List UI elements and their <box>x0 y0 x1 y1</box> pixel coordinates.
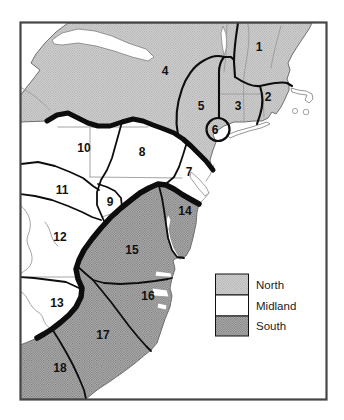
boundary-region11-12 <box>20 194 101 220</box>
region-label-10: 10 <box>77 141 91 155</box>
region-label-2: 2 <box>265 90 272 104</box>
region-label-1: 1 <box>256 40 263 54</box>
marthas-vineyard-island <box>292 108 297 113</box>
boundary-region7-west <box>160 142 187 185</box>
delaware-bay <box>190 172 209 196</box>
legend-label-south: South <box>256 320 286 332</box>
legend-label-midland: Midland <box>256 300 296 312</box>
region-label-12: 12 <box>53 230 67 244</box>
cape-cod <box>291 88 313 103</box>
legend-swatch-north <box>216 274 249 295</box>
legend-swatch-midland <box>216 295 249 316</box>
region-label-7: 7 <box>186 165 193 179</box>
nantucket-island <box>303 109 309 115</box>
region-label-18: 18 <box>53 361 67 375</box>
region-label-16: 16 <box>141 289 155 303</box>
dialect-map: 1 2 3 4 5 6 7 8 9 10 11 12 13 14 15 16 1… <box>0 0 344 420</box>
boundary-region12-13 <box>20 277 83 294</box>
region-label-3: 3 <box>235 99 242 113</box>
legend-label-north: North <box>256 279 284 291</box>
region-label-17: 17 <box>96 328 110 342</box>
region-label-11: 11 <box>56 183 69 197</box>
region-label-6: 6 <box>212 123 219 137</box>
region-label-8: 8 <box>139 145 146 159</box>
region-label-13: 13 <box>50 296 64 310</box>
region-label-4: 4 <box>162 64 169 78</box>
region-label-14: 14 <box>178 204 192 218</box>
region-label-5: 5 <box>198 99 205 113</box>
legend-swatch-south <box>216 316 249 336</box>
dialect-map-figure: 1 2 3 4 5 6 7 8 9 10 11 12 13 14 15 16 1… <box>0 0 344 420</box>
region-label-15: 15 <box>125 243 139 257</box>
legend: North Midland South <box>216 274 297 336</box>
region-label-9: 9 <box>107 195 114 209</box>
long-island <box>227 122 270 138</box>
